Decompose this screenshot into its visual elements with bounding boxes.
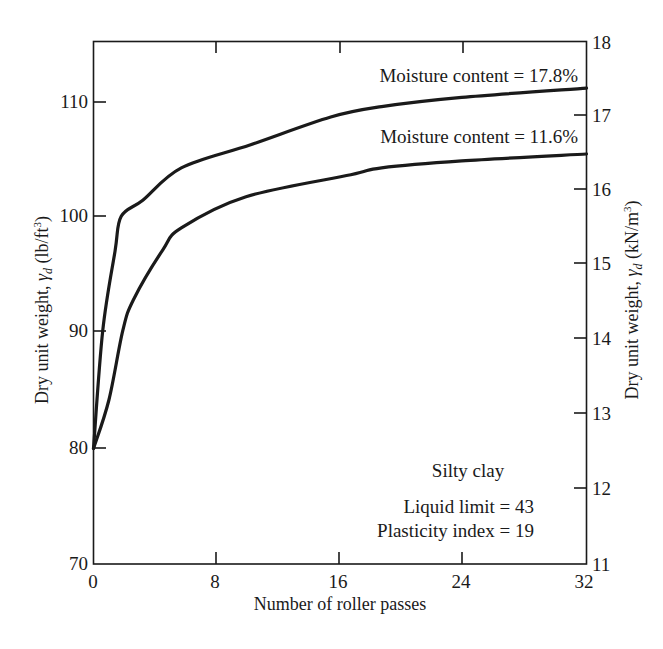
svg-text:110: 110 — [60, 91, 88, 112]
y-axis-right-ticks — [574, 115, 587, 488]
top-ticks — [216, 42, 463, 54]
y-axis-left-ticks — [94, 102, 107, 448]
x-axis-title: Number of roller passes — [254, 594, 426, 614]
svg-text:90: 90 — [69, 320, 88, 341]
svg-text:0: 0 — [88, 571, 98, 592]
svg-text:16: 16 — [329, 571, 348, 592]
svg-text:12: 12 — [592, 478, 611, 499]
y-left-tick-labels: 70 80 90 100 110 — [60, 91, 89, 574]
svg-text:100: 100 — [60, 205, 89, 226]
x-tick-labels: 0 8 16 24 32 — [88, 571, 593, 592]
curve-label-11-6: Moisture content = 11.6% — [380, 126, 578, 147]
x-axis-ticks — [216, 552, 462, 564]
svg-text:17: 17 — [592, 105, 611, 126]
svg-text:80: 80 — [69, 437, 88, 458]
svg-text:70: 70 — [69, 553, 88, 574]
svg-text:14: 14 — [592, 328, 612, 349]
svg-text:24: 24 — [452, 571, 472, 592]
plasticity-index-label: Plasticity index = 19 — [377, 520, 534, 541]
svg-text:32: 32 — [575, 571, 594, 592]
y-right-tick-labels: 11 12 13 14 15 16 17 18 — [592, 32, 612, 575]
plot-frame — [94, 42, 587, 565]
curve-moisture-11-6 — [94, 154, 587, 449]
chart: 0 8 16 24 32 70 80 90 100 110 11 12 13 1… — [0, 0, 663, 649]
liquid-limit-label: Liquid limit = 43 — [403, 496, 534, 517]
svg-text:15: 15 — [592, 253, 611, 274]
svg-text:11: 11 — [592, 554, 610, 575]
svg-text:13: 13 — [592, 403, 611, 424]
svg-text:18: 18 — [592, 32, 611, 53]
svg-text:8: 8 — [210, 571, 220, 592]
y-axis-left-title: Dry unit weight, γd (lb/ft3) — [31, 216, 55, 404]
svg-text:16: 16 — [592, 179, 611, 200]
y-axis-right-title: Dry unit weight, γd (kN/m3) — [621, 200, 645, 399]
curve-label-17-8: Moisture content = 17.8% — [379, 65, 578, 86]
soil-type-label: Silty clay — [432, 460, 505, 481]
